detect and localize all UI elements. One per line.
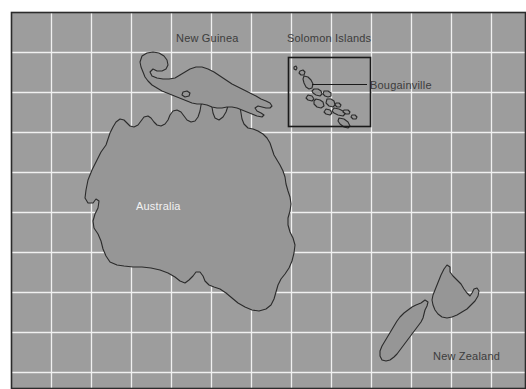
map-svg [0,0,526,389]
landmass-solomon-island-02 [299,70,305,75]
map-container: New Guinea Solomon Islands Bougainville … [0,0,526,389]
landmass-solomon-island-14 [351,115,357,119]
landmass-solomon-island-09 [335,103,341,107]
landmass-solomon-island-01 [294,66,297,70]
landmass-new-guinea-islet [182,91,190,97]
